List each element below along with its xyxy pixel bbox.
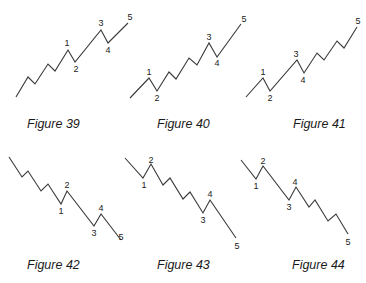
wave-label-1: 1 [253,181,258,191]
wave-line [241,160,348,234]
wave-label-5: 5 [127,12,132,22]
figure-40: 12345 [130,14,247,103]
figure-42: 12345 [9,157,124,242]
wave-label-4: 4 [105,45,110,55]
wave-label-3: 3 [98,18,103,28]
wave-label-1: 1 [260,67,265,77]
wave-label-3: 3 [200,215,205,225]
wave-label-1: 1 [58,206,63,216]
figure-44: 12345 [241,156,351,247]
wave-label-1: 1 [64,38,69,48]
wave-label-2: 2 [267,93,272,103]
wave-label-5: 5 [241,14,246,24]
wave-label-5: 5 [345,237,350,247]
wave-label-2: 2 [148,155,153,165]
wave-label-3: 3 [91,228,96,238]
wave-label-2: 2 [64,180,69,190]
wave-label-5: 5 [355,16,360,26]
wave-label-1: 1 [141,180,146,190]
figure-caption: Figure 39 [27,117,80,131]
wave-line [16,23,128,97]
wave-label-4: 4 [98,203,103,213]
wave-diagrams-canvas: 123451234512345123451234512345 [0,0,366,283]
figure-caption: Figure 43 [157,258,210,272]
wave-label-3: 3 [293,49,298,59]
wave-label-1: 1 [146,67,151,77]
wave-label-3: 3 [206,32,211,42]
figure-43: 12345 [125,155,240,251]
wave-label-5: 5 [234,241,239,251]
wave-line [125,158,236,238]
wave-line [246,27,357,97]
wave-label-4: 4 [207,189,212,199]
figure-41: 12345 [246,16,361,103]
wave-label-2: 2 [154,93,159,103]
wave-label-4: 4 [292,177,297,187]
figure-39: 12345 [16,12,133,97]
wave-line [9,157,121,240]
wave-label-4: 4 [300,75,305,85]
wave-label-2: 2 [73,64,78,74]
wave-label-5: 5 [118,232,123,242]
wave-label-3: 3 [286,202,291,212]
figure-caption: Figure 42 [27,258,80,272]
figure-caption: Figure 44 [292,258,345,272]
wave-line [130,24,241,98]
figure-caption: Figure 41 [293,117,346,131]
wave-label-4: 4 [214,58,219,68]
wave-label-2: 2 [260,156,265,166]
figure-caption: Figure 40 [157,117,210,131]
